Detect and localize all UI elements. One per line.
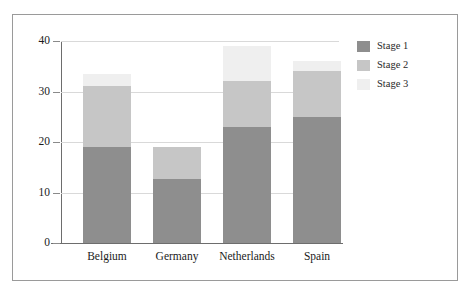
bar-segment-stage-1 [153,179,201,243]
legend-label: Stage 1 [377,41,408,52]
bar-segment-stage-2 [293,71,341,116]
bar-spain [293,61,341,243]
bar-segment-stage-3 [83,74,131,87]
x-axis-line [51,243,343,244]
y-axis-tick [53,92,60,93]
bar-segment-stage-2 [153,147,201,179]
x-axis-label-spain: Spain [271,251,363,263]
y-axis-tick-label: 40 [39,35,51,47]
bar-netherlands [223,46,271,243]
y-axis-tick-label: 20 [39,136,51,148]
bar-segment-stage-1 [293,117,341,243]
y-axis-tick [53,243,60,244]
legend: Stage 1Stage 2Stage 3 [357,37,449,94]
y-axis-tick-label: 30 [39,86,51,98]
bar-segment-stage-1 [223,127,271,243]
legend-label: Stage 3 [377,79,408,90]
bar-germany [153,147,201,243]
bar-segment-stage-2 [83,86,131,147]
bar-segment-stage-1 [83,147,131,243]
legend-swatch-icon [357,41,370,52]
legend-swatch-icon [357,79,370,90]
legend-item-stage-3[interactable]: Stage 3 [357,75,449,94]
y-axis-tick-label: 10 [39,187,51,199]
bar-segment-stage-3 [223,46,271,81]
legend-item-stage-1[interactable]: Stage 1 [357,37,449,56]
bar-belgium [83,74,131,243]
y-axis-tick [53,142,60,143]
y-axis-tick-label: 0 [44,237,50,249]
gridline [61,41,339,42]
bar-segment-stage-3 [293,61,341,71]
legend-item-stage-2[interactable]: Stage 2 [357,56,449,75]
y-axis-tick [53,41,60,42]
bar-segment-stage-2 [223,81,271,126]
chart-frame: 010203040 BelgiumGermanyNetherlandsSpain… [12,14,458,281]
legend-swatch-icon [357,60,370,71]
legend-label: Stage 2 [377,60,408,71]
y-axis-tick [53,193,60,194]
plot-area: 010203040 BelgiumGermanyNetherlandsSpain [61,41,339,243]
